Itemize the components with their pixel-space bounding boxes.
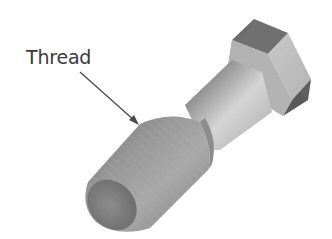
threaded-section	[78, 116, 214, 239]
bolt-illustration	[0, 0, 332, 239]
thread-label: Thread	[26, 46, 91, 68]
bolt-diagram	[0, 0, 332, 239]
thread-callout-arrow	[80, 72, 139, 125]
